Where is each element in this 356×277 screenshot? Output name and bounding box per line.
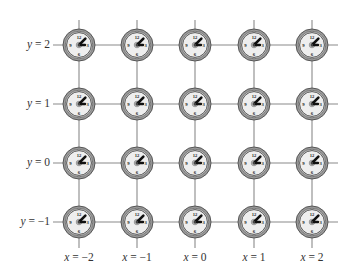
clock-icon: 12369 <box>179 29 211 61</box>
clock-icon: 12369 <box>238 88 270 120</box>
grid-lines: 1236912369123691236912369123691236912369… <box>0 0 356 277</box>
x-axis-label: x = −1 <box>112 251 162 263</box>
clock-icon: 12369 <box>63 147 95 179</box>
x-value: = 0 <box>189 251 207 263</box>
svg-text:12: 12 <box>135 153 140 158</box>
x-axis-label: x = 2 <box>287 251 337 263</box>
svg-text:12: 12 <box>77 153 82 158</box>
svg-text:12: 12 <box>135 94 140 99</box>
clock-icon: 12369 <box>238 29 270 61</box>
clock-icon: 12369 <box>121 88 153 120</box>
clock-icon: 12369 <box>296 147 328 179</box>
x-value: = −2 <box>69 251 93 263</box>
svg-text:12: 12 <box>252 35 257 40</box>
svg-text:12: 12 <box>77 94 82 99</box>
clock-icon: 12369 <box>179 147 211 179</box>
svg-text:12: 12 <box>193 35 198 40</box>
svg-text:12: 12 <box>252 153 257 158</box>
x-value: = 1 <box>248 251 266 263</box>
clock-icon: 12369 <box>296 88 328 120</box>
y-axis-label: y = −1 <box>0 215 50 227</box>
y-axis-label: y = 0 <box>0 156 50 168</box>
y-value: = −1 <box>26 215 50 227</box>
x-axis-label: x = −2 <box>54 251 104 263</box>
svg-text:12: 12 <box>77 35 82 40</box>
svg-text:12: 12 <box>310 35 315 40</box>
clock-icon: 12369 <box>238 206 270 238</box>
x-value: = 2 <box>306 251 324 263</box>
svg-text:12: 12 <box>193 212 198 217</box>
x-value: = −1 <box>127 251 151 263</box>
svg-text:12: 12 <box>135 35 140 40</box>
clock-icon: 12369 <box>296 29 328 61</box>
svg-text:12: 12 <box>193 94 198 99</box>
clock-icon: 12369 <box>296 206 328 238</box>
clock-icon: 12369 <box>121 147 153 179</box>
x-axis-label: x = 0 <box>170 251 220 263</box>
svg-text:12: 12 <box>252 212 257 217</box>
svg-text:12: 12 <box>310 212 315 217</box>
svg-text:12: 12 <box>135 212 140 217</box>
svg-text:12: 12 <box>310 94 315 99</box>
clock-icon: 12369 <box>63 29 95 61</box>
clock-icon: 12369 <box>63 88 95 120</box>
svg-text:12: 12 <box>193 153 198 158</box>
y-axis-label: y = 2 <box>0 38 50 50</box>
y-value: = 2 <box>32 38 50 50</box>
clock-icon: 12369 <box>179 88 211 120</box>
svg-text:12: 12 <box>252 94 257 99</box>
clock-icon: 12369 <box>238 147 270 179</box>
svg-text:12: 12 <box>310 153 315 158</box>
clock-icon: 12369 <box>121 29 153 61</box>
y-value: = 1 <box>32 97 50 109</box>
svg-text:12: 12 <box>77 212 82 217</box>
y-value: = 0 <box>32 156 50 168</box>
clock-icon: 12369 <box>121 206 153 238</box>
y-axis-label: y = 1 <box>0 97 50 109</box>
clock-icon: 12369 <box>179 206 211 238</box>
clock-lattice-diagram: 1236912369123691236912369123691236912369… <box>0 0 356 277</box>
x-axis-label: x = 1 <box>229 251 279 263</box>
clock-icon: 12369 <box>63 206 95 238</box>
